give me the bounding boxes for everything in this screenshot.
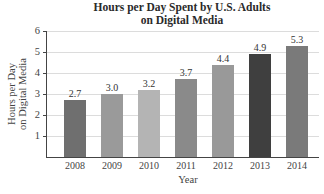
bar-value-label: 2.7 [60, 89, 90, 99]
gridline [47, 31, 319, 32]
bar-value-label: 4.9 [245, 43, 275, 53]
bar-2012 [212, 65, 234, 157]
x-tick-label: 2010 [131, 161, 167, 171]
bar-value-label: 3.7 [171, 68, 201, 78]
bar-value-label: 3.0 [97, 83, 127, 93]
x-tick-label: 2011 [168, 161, 204, 171]
y-tick-label: 4 [30, 68, 40, 78]
x-tick-label: 2009 [94, 161, 130, 171]
gridline [47, 52, 319, 53]
bar-value-label: 4.4 [208, 54, 238, 64]
chart-title-line-2: on Digital Media [20, 14, 324, 27]
chart-title-line-1: Hours per Day Spent by U.S. Adults [20, 1, 324, 14]
bar-2013 [249, 54, 271, 157]
y-axis-label-line-2: on Digital Media [17, 49, 28, 139]
bar-value-label: 3.2 [134, 79, 164, 89]
y-tick-label: 5 [30, 47, 40, 57]
bar-2008 [64, 100, 86, 157]
bar-2014 [286, 46, 308, 157]
y-axis-label-line-1: Hours per Day [6, 49, 17, 139]
y-axis-line [46, 31, 47, 158]
y-tick-label: 3 [30, 89, 40, 99]
bar-2011 [175, 79, 197, 157]
bar-value-label: 5.3 [282, 35, 312, 45]
y-tick-label: 2 [30, 110, 40, 120]
x-tick-label: 2012 [205, 161, 241, 171]
y-tick-label: 6 [30, 26, 40, 36]
x-axis-label: Year [168, 174, 208, 185]
y-tick-label: 1 [30, 131, 40, 141]
x-tick-label: 2013 [242, 161, 278, 171]
bar-2010 [138, 90, 160, 157]
x-axis-line [46, 157, 319, 158]
x-tick-label: 2014 [279, 161, 315, 171]
bar-2009 [101, 94, 123, 157]
x-tick-label: 2008 [57, 161, 93, 171]
